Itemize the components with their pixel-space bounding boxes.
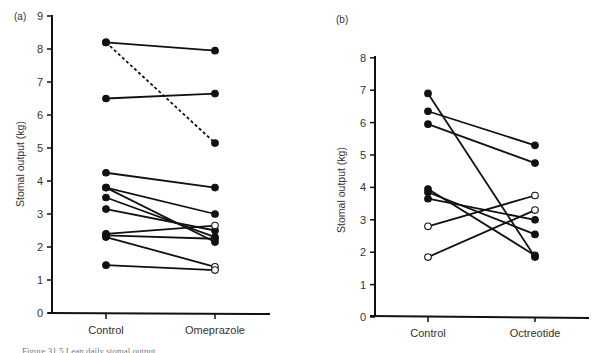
filled-marker bbox=[425, 195, 432, 202]
y-tick-label: 8 bbox=[360, 52, 366, 64]
filled-marker bbox=[103, 95, 110, 102]
paired-line bbox=[106, 237, 215, 267]
filled-marker bbox=[532, 160, 539, 167]
open-marker bbox=[425, 254, 432, 261]
paired-line bbox=[106, 188, 215, 242]
y-tick-label: 6 bbox=[37, 109, 43, 121]
open-marker bbox=[212, 267, 219, 274]
paired-line bbox=[428, 192, 535, 234]
y-tick-label: 6 bbox=[360, 117, 366, 129]
figure-canvas: (a) 0123456789 ControlOmeprazole Stomal … bbox=[0, 0, 598, 353]
paired-line bbox=[106, 42, 215, 143]
series-group-a bbox=[103, 39, 219, 273]
filled-marker bbox=[425, 121, 432, 128]
y-tick-label: 1 bbox=[37, 274, 43, 286]
paired-line bbox=[428, 124, 535, 163]
series-patient-5 bbox=[425, 189, 539, 238]
filled-marker bbox=[103, 39, 110, 46]
y-tick-label: 0 bbox=[37, 307, 43, 319]
filled-marker bbox=[103, 206, 110, 213]
y-tick-label: 5 bbox=[37, 142, 43, 154]
series-patient-8 bbox=[425, 207, 539, 261]
y-tick-label: 7 bbox=[360, 84, 366, 96]
paired-line bbox=[106, 265, 215, 270]
filled-marker bbox=[103, 234, 110, 241]
filled-marker bbox=[103, 169, 110, 176]
filled-marker bbox=[212, 211, 219, 218]
filled-marker bbox=[425, 189, 432, 196]
open-marker bbox=[425, 223, 432, 230]
paired-line bbox=[106, 198, 215, 238]
paired-line bbox=[106, 235, 215, 238]
y-ticks-a: 0123456789 bbox=[37, 10, 52, 319]
y-tick-label: 3 bbox=[37, 208, 43, 220]
paired-line bbox=[428, 93, 535, 257]
open-marker bbox=[212, 222, 219, 229]
y-tick-label: 4 bbox=[37, 175, 43, 187]
filled-marker bbox=[212, 47, 219, 54]
y-tick-label: 4 bbox=[360, 181, 366, 193]
filled-marker bbox=[212, 184, 219, 191]
series-group-b bbox=[425, 90, 539, 260]
filled-marker bbox=[212, 235, 219, 242]
filled-marker bbox=[103, 262, 110, 269]
y-tick-label: 1 bbox=[360, 279, 366, 291]
panel-label-a: (a) bbox=[14, 11, 26, 22]
series-patient-1 bbox=[103, 39, 219, 54]
filled-marker bbox=[425, 90, 432, 97]
x-axis-a bbox=[48, 313, 270, 314]
y-tick-label: 0 bbox=[360, 311, 366, 323]
figure-caption: Figure 31.5 Lean daily stomal output... bbox=[22, 344, 162, 353]
y-tick-label: 9 bbox=[37, 10, 43, 22]
x-category-label: Octreotide bbox=[510, 327, 561, 339]
y-axis-title-b: Stomal output (kg) bbox=[335, 147, 347, 233]
x-ticks-a: ControlOmeprazole bbox=[88, 314, 245, 336]
panel-a-omeprazole: (a) 0123456789 ControlOmeprazole Stomal … bbox=[14, 10, 270, 336]
x-axis-b bbox=[370, 316, 589, 318]
panel-label-b: (b) bbox=[336, 14, 348, 25]
y-tick-label: 2 bbox=[37, 241, 43, 253]
x-category-label: Control bbox=[88, 324, 123, 336]
series-patient-2 bbox=[103, 39, 219, 146]
y-tick-label: 8 bbox=[37, 43, 43, 55]
filled-marker bbox=[212, 90, 219, 97]
y-tick-label: 5 bbox=[360, 149, 366, 161]
y-axis-title-a: Stomal output (kg) bbox=[14, 121, 26, 207]
paired-line bbox=[106, 94, 215, 99]
open-marker bbox=[532, 192, 539, 199]
filled-marker bbox=[532, 252, 539, 259]
filled-marker bbox=[103, 184, 110, 191]
paired-line bbox=[428, 111, 535, 145]
x-category-label: Omeprazole bbox=[185, 324, 245, 336]
paired-line bbox=[106, 226, 215, 234]
filled-marker bbox=[212, 140, 219, 147]
paired-line bbox=[106, 173, 215, 188]
series-patient-4 bbox=[103, 169, 219, 190]
paired-line bbox=[106, 188, 215, 214]
series-patient-11 bbox=[103, 234, 219, 270]
y-tick-label: 7 bbox=[37, 76, 43, 88]
filled-marker bbox=[103, 194, 110, 201]
y-tick-label: 3 bbox=[360, 214, 366, 226]
y-ticks-b: 012345678 bbox=[360, 52, 375, 323]
y-tick-label: 2 bbox=[360, 246, 366, 258]
filled-marker bbox=[425, 108, 432, 115]
x-category-label: Control bbox=[410, 327, 445, 339]
filled-marker bbox=[532, 217, 539, 224]
filled-marker bbox=[532, 142, 539, 149]
x-ticks-b: ControlOctreotide bbox=[410, 317, 560, 339]
filled-marker bbox=[532, 231, 539, 238]
open-marker bbox=[532, 207, 539, 214]
panel-b-octreotide: (b) 012345678 ControlOctreotide Stomal o… bbox=[335, 14, 589, 339]
paired-line bbox=[106, 42, 215, 50]
